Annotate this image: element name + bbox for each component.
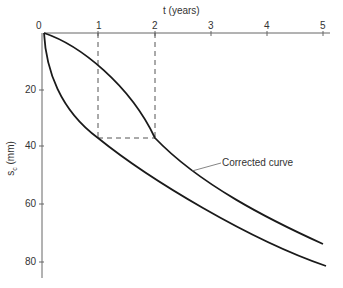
- x-tick-4: 4: [264, 20, 270, 31]
- y-axis-title-unit: (mm): [5, 141, 16, 167]
- x-tick-5: 5: [320, 20, 326, 31]
- y-tick-20: 20: [25, 84, 36, 95]
- settlement-time-chart: [0, 0, 343, 288]
- x-tick-3: 3: [208, 20, 214, 31]
- y-tick-60: 60: [25, 198, 36, 209]
- x-tick-1: 1: [96, 20, 102, 31]
- corrected-curve: [44, 33, 323, 244]
- corrected-curve-label: Corrected curve: [222, 157, 293, 168]
- instantaneous-curve: [44, 33, 326, 266]
- y-axis-title-main: s: [5, 171, 16, 176]
- annotation-leader: [192, 163, 221, 171]
- x-axis-title: t (years): [163, 5, 200, 16]
- x-tick-0: 0: [36, 20, 42, 31]
- y-tick-80: 80: [25, 256, 36, 267]
- y-axis-title-sub: c: [11, 167, 18, 171]
- y-axis-title: sc (mm): [5, 134, 18, 184]
- x-tick-2: 2: [152, 20, 158, 31]
- y-tick-40: 40: [25, 140, 36, 151]
